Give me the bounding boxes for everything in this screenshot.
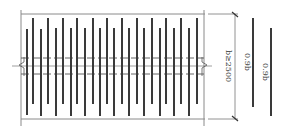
width-dimension-label: b≥2500 bbox=[224, 50, 233, 82]
bar-length-label-1: 0.9b bbox=[243, 53, 252, 71]
reinforcement-diagram: b≥2500 0.9b 0.9b bbox=[0, 0, 282, 134]
rebar-group bbox=[27, 18, 197, 116]
bar-length-label-2: 0.9b bbox=[261, 63, 270, 81]
